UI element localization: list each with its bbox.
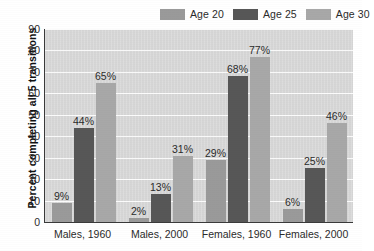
- x-axis-label: Females, 2000: [279, 228, 348, 240]
- y-tick-label: 30: [20, 152, 40, 164]
- legend-swatch-age-30: [306, 9, 331, 20]
- bar-value-label: 77%: [240, 44, 280, 56]
- legend-item-age-30: Age 30: [306, 8, 370, 20]
- y-tick-label: 40: [20, 130, 40, 142]
- bar: [173, 156, 193, 222]
- bar: [327, 123, 347, 222]
- y-tick-label: 60: [20, 87, 40, 99]
- y-axis-tick-labels: 9080706050403020100: [20, 29, 40, 222]
- x-axis-category-labels: Males, 1960Males, 2000Females, 1960Femal…: [44, 228, 352, 244]
- legend-swatch-age-25: [233, 9, 258, 20]
- bar-group: 2%13%31%: [122, 29, 199, 222]
- bar: [283, 209, 303, 222]
- bar-value-label: 65%: [86, 70, 126, 82]
- y-tick-label: 0: [20, 216, 40, 228]
- bar: [250, 57, 270, 222]
- bar: [129, 218, 149, 222]
- x-axis-label: Males, 2000: [131, 228, 188, 240]
- y-tick-label: 20: [20, 173, 40, 185]
- x-axis-label: Males, 1960: [54, 228, 111, 240]
- bar-series-container: 9%44%65%2%13%31%29%68%77%6%25%46%: [45, 29, 353, 222]
- bar: [151, 194, 171, 222]
- y-tick-label: 80: [20, 44, 40, 56]
- bar-group: 6%25%46%: [276, 29, 353, 222]
- legend-label-age-20: Age 20: [190, 8, 224, 20]
- bar: [305, 168, 325, 222]
- legend-item-age-20: Age 20: [160, 8, 224, 20]
- bar-value-label: 46%: [317, 110, 357, 122]
- y-tick-label: 10: [20, 195, 40, 207]
- bar: [228, 76, 248, 222]
- bar: [74, 128, 94, 222]
- plot-area: 9%44%65%2%13%31%29%68%77%6%25%46%: [44, 29, 353, 223]
- bar: [206, 160, 226, 222]
- chart-legend: Age 20 Age 25 Age 30: [160, 7, 374, 21]
- bar-group: 29%68%77%: [199, 29, 276, 222]
- y-tick-label: 70: [20, 66, 40, 78]
- bar: [52, 203, 72, 222]
- bar: [96, 83, 116, 222]
- y-tick-label: 50: [20, 109, 40, 121]
- legend-label-age-25: Age 25: [263, 8, 297, 20]
- bar-group: 9%44%65%: [45, 29, 122, 222]
- x-axis-label: Females, 1960: [202, 228, 271, 240]
- legend-label-age-30: Age 30: [336, 8, 370, 20]
- legend-swatch-age-20: [160, 9, 185, 20]
- legend-item-age-25: Age 25: [233, 8, 297, 20]
- y-tick-label: 90: [20, 23, 40, 35]
